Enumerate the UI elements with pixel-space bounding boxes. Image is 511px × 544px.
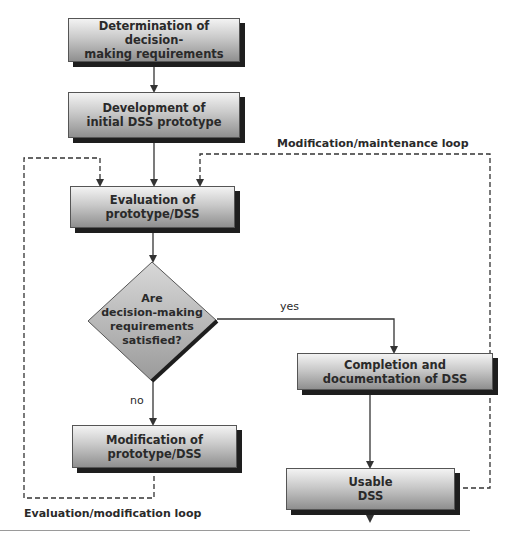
node-label: initial DSS prototype xyxy=(86,115,221,129)
decision-line: decision-making xyxy=(101,306,203,319)
decision-line: requirements xyxy=(110,320,194,333)
node-label: Development of xyxy=(102,101,205,115)
edge-label-no: no xyxy=(130,394,144,407)
decision-text: Are decision-making requirements satisfi… xyxy=(92,292,212,348)
node-completion: Completion anddocumentation of DSS xyxy=(297,353,493,390)
node-label: Usable xyxy=(349,475,393,489)
loop-label-maintenance: Modification/maintenance loop xyxy=(277,137,469,150)
node-label: Modification of xyxy=(106,433,203,447)
node-usable: UsableDSS xyxy=(286,468,455,510)
node-development: Development ofinitial DSS prototype xyxy=(68,92,240,138)
bottom-rule xyxy=(0,530,470,531)
node-label: Determination of decision- xyxy=(99,19,210,47)
edge-label-yes: yes xyxy=(280,300,299,313)
node-modification: Modification ofprototype/DSS xyxy=(72,425,237,468)
node-determination: Determination of decision-making require… xyxy=(68,18,240,62)
decision-line: Are xyxy=(141,292,162,305)
node-label: Evaluation of xyxy=(110,193,195,207)
node-label: Completion and xyxy=(344,358,446,372)
node-label: prototype/DSS xyxy=(105,207,199,221)
decision-line: satisfied? xyxy=(122,334,181,347)
node-label: DSS xyxy=(358,489,384,503)
loop-label-evaluation: Evaluation/modification loop xyxy=(24,507,201,520)
node-evaluation: Evaluation ofprototype/DSS xyxy=(70,186,235,228)
node-label: prototype/DSS xyxy=(107,447,201,461)
node-label: documentation of DSS xyxy=(323,372,467,386)
node-label: making requirements xyxy=(84,47,223,61)
